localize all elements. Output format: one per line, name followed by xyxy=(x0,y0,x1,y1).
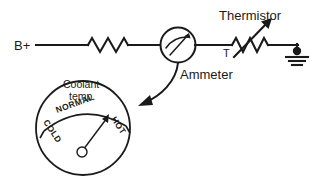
thermistor-designator-label: T xyxy=(223,47,230,59)
callout-arrow-head xyxy=(138,95,153,106)
callout-arrow-shaft xyxy=(146,63,178,102)
fixed-resistor-symbol xyxy=(88,38,128,52)
gauge-needle-pivot xyxy=(77,147,87,157)
thermistor-label: Thermistor xyxy=(219,8,282,23)
circuit-diagram-canvas: B+ Thermistor T Ammeter Coolant temp. CO… xyxy=(0,0,319,177)
gauge-title-line1: Coolant xyxy=(63,78,99,90)
ground-junction-dot xyxy=(293,47,301,55)
ammeter-label: Ammeter xyxy=(180,67,233,82)
circuit-diagram: B+ Thermistor T Ammeter Coolant temp. CO… xyxy=(0,0,319,177)
supply-label: B+ xyxy=(14,38,30,53)
